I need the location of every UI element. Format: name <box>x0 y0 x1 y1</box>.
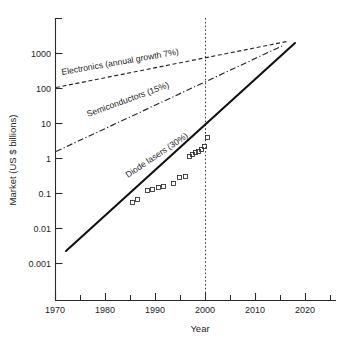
data-point-marker <box>184 175 188 179</box>
market-growth-chart: 1000 100 10 1 0.1 0.01 0.001 1970 19 <box>0 0 343 346</box>
x-tick-label-1990: 1990 <box>145 305 165 315</box>
y-tick-label-1: 1 <box>46 154 51 164</box>
y-tick-label-10: 10 <box>41 119 51 129</box>
y-tick-label-0.01: 0.01 <box>33 224 51 234</box>
data-point-marker <box>172 182 176 186</box>
data-point-marker <box>136 198 140 202</box>
x-axis-tick-labels: 1970 1980 1990 2000 2010 2020 <box>45 305 315 315</box>
data-point-marker <box>162 185 166 189</box>
x-tick-label-2020: 2020 <box>295 305 315 315</box>
series-label-semiconductors: Semiconductors (15%) <box>85 80 170 119</box>
y-axis-ticks <box>56 54 63 264</box>
chart-figure: 1000 100 10 1 0.1 0.01 0.001 1970 19 <box>0 0 343 346</box>
data-point-marker <box>157 186 161 190</box>
y-tick-label-0.1: 0.1 <box>38 189 51 199</box>
data-point-marker <box>178 176 182 180</box>
data-point-marker <box>146 189 150 193</box>
series-label-electronics: Electronics (annual growth 7%) <box>61 46 180 77</box>
x-axis-title: Year <box>190 323 209 334</box>
y-axis-tick-labels: 1000 100 10 1 0.1 0.01 0.001 <box>28 49 51 269</box>
data-point-marker <box>151 188 155 192</box>
y-tick-label-100: 100 <box>36 84 51 94</box>
series-label-diode-lasers: Diode lasers (30%) <box>124 130 190 179</box>
data-point-marker <box>206 136 210 140</box>
x-tick-label-2010: 2010 <box>245 305 265 315</box>
x-tick-label-1980: 1980 <box>95 305 115 315</box>
trend-line-diode-lasers <box>66 43 295 251</box>
y-axis-title: Market (US $ billions) <box>7 115 18 206</box>
data-point-marker <box>131 201 135 205</box>
x-tick-label-2000: 2000 <box>195 305 215 315</box>
y-tick-label-0.001: 0.001 <box>28 259 51 269</box>
x-tick-label-1970: 1970 <box>45 305 65 315</box>
y-tick-label-1000: 1000 <box>31 49 51 59</box>
x-axis-ticks <box>56 293 331 301</box>
